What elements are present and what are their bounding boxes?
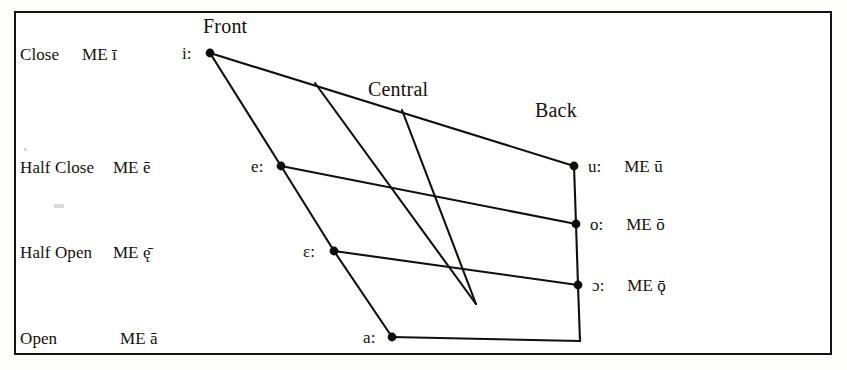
vowel-dot-i-long (206, 49, 215, 58)
height-gloss-close: ME ī (82, 45, 117, 64)
vowel-symbol-u-long: u: (588, 157, 601, 176)
edge-back-line (574, 166, 580, 341)
vowel-label-a-long: a: (363, 329, 375, 346)
vowel-dot-e-long (277, 162, 286, 171)
vowel-symbol-o-long: o: (590, 215, 603, 234)
vowel-gloss-o-long: ME ō (626, 215, 665, 234)
vowel-dot-o-long (572, 220, 581, 229)
axis-heading-central: Central (368, 79, 428, 99)
axis-heading-back: Back (535, 100, 577, 120)
height-name-half-close: Half Close (20, 158, 94, 177)
vowel-dot-open-e-long (330, 247, 339, 256)
vowel-symbol-open-o-long: ɔ: (592, 276, 604, 295)
diagonal-converging-b (402, 110, 476, 304)
height-gloss-half-open: ME ę̄ (113, 243, 151, 262)
height-name-close: Close (20, 45, 59, 64)
vowel-quadrilateral-diagram (0, 0, 847, 370)
vowel-dot-u-long (570, 162, 579, 171)
edge-open-line (392, 337, 580, 341)
vowel-dot-open-o-long (574, 281, 583, 290)
height-label-half-close: Half Close ME ē (20, 159, 151, 176)
edge-half-open-line (334, 251, 578, 285)
height-gloss-half-close: ME ē (113, 158, 151, 177)
height-label-close: Close ME ī (20, 46, 117, 63)
vowel-label-o-long: o: ME ō (590, 216, 665, 233)
height-name-half-open: Half Open (20, 243, 92, 262)
vowel-label-open-o-long: ɔ: ME ǭ (592, 277, 666, 294)
axis-heading-front: Front (203, 16, 247, 36)
vowel-label-i-long: i: (182, 45, 192, 62)
vowel-gloss-open-o-long: ME ǭ (627, 276, 666, 295)
vowel-gloss-u-long: ME ū (624, 157, 663, 176)
height-label-open: Open ME ā (20, 330, 158, 347)
height-gloss-open: ME ā (120, 329, 158, 348)
edge-half-close-line (281, 166, 576, 224)
edge-close-line (210, 53, 574, 166)
height-label-half-open: Half Open ME ę̄ (20, 244, 151, 261)
diagonal-converging-a (315, 83, 476, 304)
vowel-label-open-e-long: ɛ: (303, 243, 315, 260)
vowel-label-u-long: u: ME ū (588, 158, 663, 175)
height-name-open: Open (20, 329, 57, 348)
vowel-label-e-long: e: (251, 158, 263, 175)
vowel-dot-a-long (388, 333, 397, 342)
edge-front-line (210, 53, 392, 337)
figure-canvas: Front Central Back Close ME ī Half Close… (0, 0, 847, 370)
